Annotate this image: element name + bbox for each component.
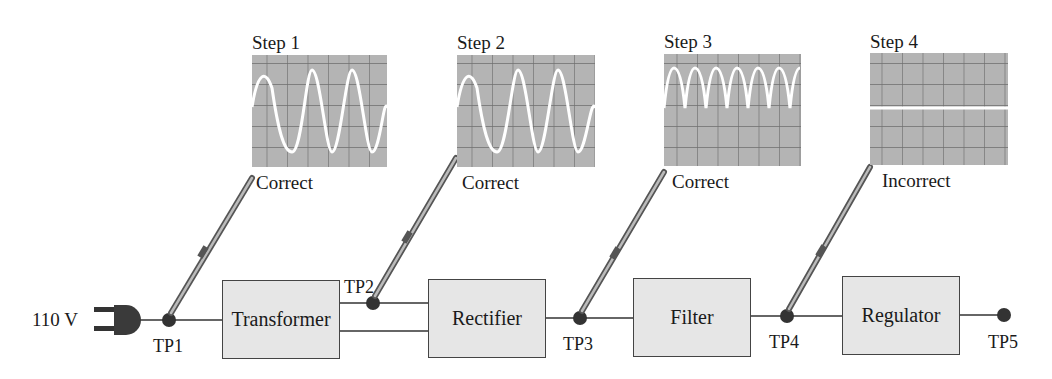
scope-screen-step4 bbox=[870, 53, 1008, 165]
step3-result: Correct bbox=[672, 171, 729, 193]
tp1-label: TP1 bbox=[153, 336, 183, 357]
step1-result: Correct bbox=[256, 172, 313, 194]
scope-screen-step3 bbox=[664, 54, 801, 166]
scope-screen-step2 bbox=[457, 55, 595, 167]
step4-label: Step 4 bbox=[870, 31, 918, 53]
regulator-block: Regulator bbox=[842, 276, 960, 355]
tp5-node bbox=[997, 308, 1011, 322]
tp5-label: TP5 bbox=[988, 332, 1018, 353]
step2-label: Step 2 bbox=[457, 32, 505, 54]
step3-label: Step 3 bbox=[664, 31, 712, 53]
transformer-block: Transformer bbox=[222, 280, 340, 359]
tp4-label: TP4 bbox=[769, 332, 799, 353]
source-voltage-label: 110 V bbox=[32, 309, 78, 331]
rectifier-block: Rectifier bbox=[428, 279, 546, 358]
filter-block: Filter bbox=[633, 278, 751, 357]
step1-label: Step 1 bbox=[252, 32, 300, 54]
step4-result: Incorrect bbox=[882, 170, 951, 192]
step2-result: Correct bbox=[462, 172, 519, 194]
tp3-label: TP3 bbox=[563, 334, 593, 355]
tp2-label: TP2 bbox=[344, 277, 374, 298]
plug-icon bbox=[94, 305, 141, 335]
scope-screen-step1 bbox=[252, 55, 387, 167]
